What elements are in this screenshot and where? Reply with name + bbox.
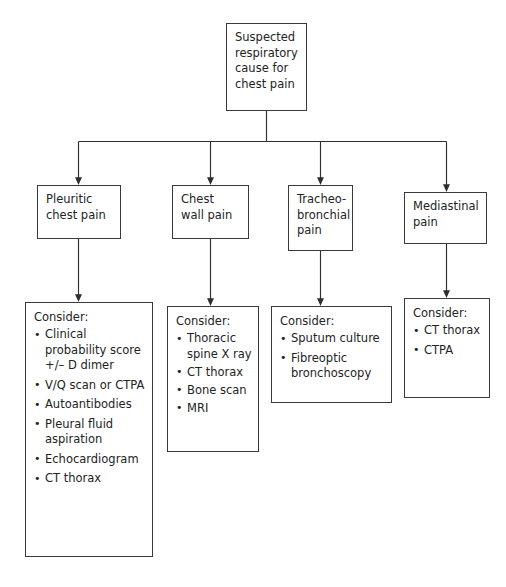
list-item: CT thorax <box>34 471 146 487</box>
node-branch-mediastinal[interactable]: Mediastinal pain <box>404 192 487 244</box>
node-branch-chest-wall-label: Chest wall pain <box>173 186 248 227</box>
list-item: V/Q scan or CTPA <box>34 378 146 394</box>
list-item: Clinical probability score +/– D dimer <box>34 327 146 374</box>
consider-list-4: CT thorax CTPA <box>405 323 489 368</box>
node-branch-pleuritic[interactable]: Pleuritic chest pain <box>37 185 121 239</box>
list-item: CT thorax <box>176 365 252 381</box>
node-branch-tracheobronchial[interactable]: Tracheo- bronchial pain <box>288 185 353 251</box>
node-branch-mediastinal-label: Mediastinal pain <box>405 193 486 234</box>
list-item: Autoantibodies <box>34 397 146 413</box>
list-item: MRI <box>176 401 252 417</box>
node-consider-chest-wall[interactable]: Consider: Thoracic spine X ray CT thorax… <box>167 306 259 452</box>
consider-header-1: Consider: <box>26 303 152 327</box>
list-item: Bone scan <box>176 383 252 399</box>
list-item: Thoracic spine X ray <box>176 331 252 362</box>
list-item: Fibreoptic bronchoscopy <box>280 351 385 382</box>
list-item: Echocardiogram <box>34 452 146 468</box>
node-consider-tracheobronchial[interactable]: Consider: Sputum culture Fibreoptic bron… <box>271 306 392 403</box>
consider-list-2: Thoracic spine X ray CT thorax Bone scan… <box>168 331 258 425</box>
list-item: CT thorax <box>413 323 483 339</box>
consider-list-3: Sputum culture Fibreoptic bronchoscopy <box>272 331 391 392</box>
node-branch-chest-wall[interactable]: Chest wall pain <box>172 185 249 239</box>
consider-header-3: Consider: <box>272 307 391 331</box>
list-item: Sputum culture <box>280 331 385 347</box>
node-root-label: Suspected respiratory cause for chest pa… <box>227 24 306 96</box>
list-item: Pleural fluid aspiration <box>34 417 146 448</box>
node-branch-tracheobronchial-label: Tracheo- bronchial pain <box>289 186 352 243</box>
node-consider-mediastinal[interactable]: Consider: CT thorax CTPA <box>404 298 490 398</box>
node-branch-pleuritic-label: Pleuritic chest pain <box>38 186 120 227</box>
consider-list-1: Clinical probability score +/– D dimer V… <box>26 327 152 497</box>
node-consider-pleuritic[interactable]: Consider: Clinical probability score +/–… <box>25 302 153 557</box>
node-root[interactable]: Suspected respiratory cause for chest pa… <box>226 23 307 111</box>
consider-header-4: Consider: <box>405 299 489 323</box>
flowchart-canvas: Suspected respiratory cause for chest pa… <box>0 0 506 587</box>
consider-header-2: Consider: <box>168 307 258 331</box>
list-item: CTPA <box>413 343 483 359</box>
